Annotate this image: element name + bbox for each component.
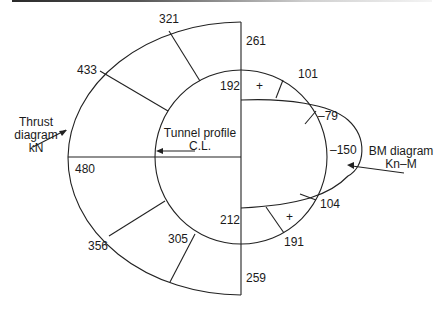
thrust-diagram-label: Thrust diagram kN <box>8 116 64 155</box>
bm-value-101: 101 <box>298 68 318 81</box>
bm-radial-101 <box>276 80 283 98</box>
bm-value-neg79: –79 <box>318 110 338 123</box>
bm-diagram-label: BM diagram Kn–M <box>366 145 436 171</box>
thrust-value-259: 259 <box>246 272 266 285</box>
thrust-radial-356 <box>109 201 165 236</box>
bm-value-neg150: –150 <box>330 144 357 157</box>
bm-value-192: 192 <box>220 80 240 93</box>
thrust-value-480: 480 <box>75 163 95 176</box>
thrust-radial-433 <box>100 71 168 111</box>
thrust-value-321: 321 <box>159 13 179 26</box>
bm-sign-lower: + <box>286 211 293 224</box>
thrust-value-305: 305 <box>168 233 188 246</box>
thrust-radial-321 <box>169 31 200 81</box>
tunnel-profile-label: Tunnel profile C.L. <box>160 127 240 153</box>
bm-radial-191 <box>266 207 284 233</box>
bm-value-191: 191 <box>284 236 304 249</box>
thrust-value-356: 356 <box>88 240 108 253</box>
bm-arrowhead <box>347 162 354 169</box>
tunnel-profile-cl: C.L. <box>160 140 240 153</box>
bm-value-104: 104 <box>320 198 340 211</box>
bm-sign-upper: + <box>256 80 263 93</box>
bm-radial-79 <box>305 111 316 124</box>
thrust-value-261: 261 <box>246 35 266 48</box>
thrust-label-line3: kN <box>8 142 64 155</box>
bm-label-line2: Kn–M <box>366 158 436 171</box>
bm-value-212: 212 <box>220 214 240 227</box>
thrust-value-433: 433 <box>77 64 97 77</box>
